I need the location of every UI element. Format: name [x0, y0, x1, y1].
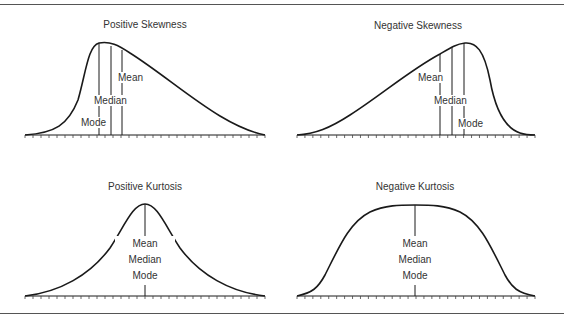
nk-mean-label: Mean	[385, 236, 445, 252]
pk-labels: Mean Median Mode	[115, 236, 175, 284]
negative-kurtosis-title: Negative Kurtosis	[315, 181, 515, 192]
distribution-diagrams	[0, 0, 564, 324]
ns-mean-label: Mean	[417, 72, 444, 83]
nk-median-label: Median	[385, 252, 445, 268]
positive-skewness-title: Positive Skewness	[45, 19, 245, 30]
pk-mean-label: Mean	[115, 236, 175, 252]
ns-median-label: Median	[433, 95, 468, 106]
ns-mode-label: Mode	[457, 118, 484, 129]
ps-mode-label: Mode	[80, 117, 107, 128]
positive-kurtosis-title: Positive Kurtosis	[45, 181, 245, 192]
ps-mean-label: Mean	[117, 72, 144, 83]
nk-mode-label: Mode	[385, 268, 445, 284]
pk-median-label: Median	[115, 252, 175, 268]
positive-skewness-curve	[25, 42, 265, 135]
ps-median-label: Median	[93, 95, 128, 106]
nk-labels: Mean Median Mode	[385, 236, 445, 284]
negative-skewness-title: Negative Skewness	[318, 20, 518, 31]
negative-skewness-curve	[297, 43, 535, 135]
pk-mode-label: Mode	[115, 268, 175, 284]
